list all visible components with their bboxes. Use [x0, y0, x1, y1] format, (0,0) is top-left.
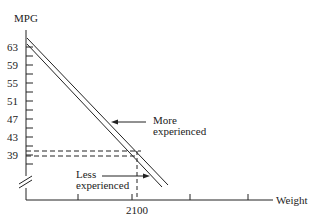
x-tick-label: 2100	[126, 204, 149, 216]
y-ticks	[26, 47, 33, 164]
x-ticks	[78, 194, 248, 200]
y-axis-title: MPG	[14, 12, 38, 24]
more-experienced-line	[27, 38, 168, 185]
y-tick-label: 47	[7, 113, 19, 125]
x-axis-title: Weight	[276, 194, 308, 206]
y-tick-label: 39	[7, 149, 19, 161]
arrowhead-icon	[143, 174, 150, 179]
chart-canvas: 63 59 55 51 47 43 39 MPG Weight 2100 Mor…	[0, 0, 313, 219]
arrowhead-icon	[111, 120, 118, 125]
less-experienced-label: experienced	[76, 179, 130, 191]
y-tick-label: 43	[7, 131, 19, 143]
less-experienced-line	[27, 44, 162, 187]
y-tick-label: 63	[7, 41, 19, 53]
y-tick-label: 51	[7, 95, 18, 107]
axis-break-mark	[19, 180, 32, 188]
y-tick-label: 59	[7, 59, 19, 71]
more-experienced-label: experienced	[153, 125, 207, 137]
axis-break-mark	[19, 176, 32, 184]
y-tick-label: 55	[7, 77, 19, 89]
